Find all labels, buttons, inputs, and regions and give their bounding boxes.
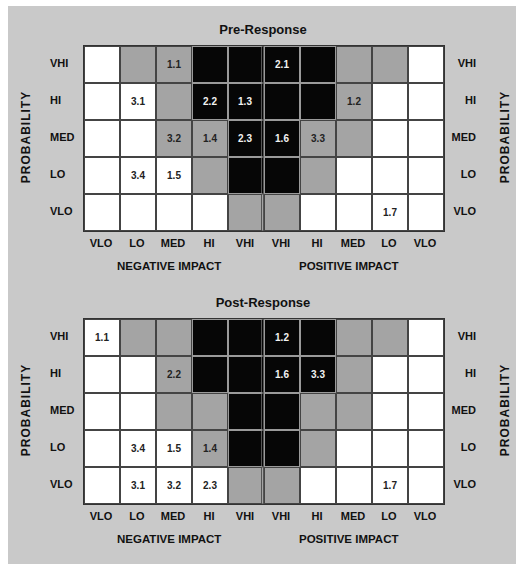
probability-row-label: VLO	[50, 205, 90, 217]
probability-axis-label: PROBABILITY	[19, 77, 33, 197]
probability-row-label: VHI	[436, 330, 476, 342]
risk-cell	[192, 194, 228, 231]
risk-cell	[264, 430, 300, 467]
risk-cell	[228, 467, 264, 504]
impact-column-label: MED	[155, 237, 191, 249]
probability-axis-label: PROBABILITY	[498, 350, 512, 470]
impact-column-label: VHI	[227, 510, 263, 522]
risk-cell: 1.7	[372, 467, 408, 504]
probability-row-label: VHI	[436, 57, 476, 69]
risk-cell: 2.2	[192, 83, 228, 120]
risk-cell	[156, 393, 192, 430]
risk-cell	[336, 467, 372, 504]
impact-column-label: VLO	[83, 510, 119, 522]
probability-axis-label: PROBABILITY	[498, 77, 512, 197]
risk-cell: 2.2	[156, 356, 192, 393]
risk-cell	[192, 393, 228, 430]
impact-column-label: MED	[155, 510, 191, 522]
risk-cell	[372, 319, 408, 356]
risk-cell	[192, 46, 228, 83]
risk-cell: 3.3	[300, 356, 336, 393]
probability-row-label: LO	[50, 168, 90, 180]
probability-row-label: VHI	[50, 57, 90, 69]
risk-cell	[228, 430, 264, 467]
risk-cell	[372, 393, 408, 430]
probability-row-label: MED	[50, 404, 90, 416]
probability-row-label: MED	[50, 131, 90, 143]
risk-cell	[228, 157, 264, 194]
risk-cell	[300, 157, 336, 194]
impact-column-label: HI	[191, 510, 227, 522]
probability-row-label: VHI	[50, 330, 90, 342]
risk-grid: 1.12.13.12.21.31.23.21.42.31.63.33.41.51…	[83, 45, 445, 232]
risk-cell	[300, 46, 336, 83]
risk-cell	[336, 430, 372, 467]
risk-cell	[120, 356, 156, 393]
risk-cell	[120, 319, 156, 356]
probability-axis-label: PROBABILITY	[19, 350, 33, 470]
risk-cell	[120, 120, 156, 157]
probability-row-label: VLO	[436, 478, 476, 490]
risk-cell: 1.4	[192, 120, 228, 157]
probability-row-label: VLO	[50, 478, 90, 490]
risk-cell	[372, 46, 408, 83]
risk-cell: 1.1	[156, 46, 192, 83]
risk-cell	[300, 194, 336, 231]
risk-cell: 2.1	[264, 46, 300, 83]
risk-cell	[336, 319, 372, 356]
probability-row-label: LO	[436, 168, 476, 180]
risk-cell: 3.4	[120, 157, 156, 194]
impact-column-label: HI	[299, 510, 335, 522]
risk-cell	[372, 83, 408, 120]
risk-cell	[300, 319, 336, 356]
risk-cell	[120, 194, 156, 231]
impact-column-label: VLO	[83, 237, 119, 249]
risk-cell	[336, 393, 372, 430]
positive-impact-label: POSITIVE IMPACT	[299, 533, 398, 545]
risk-cell	[192, 157, 228, 194]
risk-cell: 3.3	[300, 120, 336, 157]
probability-row-label: LO	[436, 441, 476, 453]
risk-cell	[156, 319, 192, 356]
risk-cell	[228, 46, 264, 83]
negative-impact-label: NEGATIVE IMPACT	[117, 533, 221, 545]
impact-column-label: VLO	[407, 237, 443, 249]
risk-cell: 3.1	[120, 83, 156, 120]
risk-cell	[336, 120, 372, 157]
positive-impact-label: POSITIVE IMPACT	[299, 260, 398, 272]
impact-column-label: LO	[371, 510, 407, 522]
risk-cell: 1.2	[336, 83, 372, 120]
negative-impact-label: NEGATIVE IMPACT	[117, 260, 221, 272]
risk-cell	[264, 393, 300, 430]
risk-cell	[228, 194, 264, 231]
risk-cell	[372, 120, 408, 157]
risk-cell	[264, 467, 300, 504]
risk-cell: 1.6	[264, 120, 300, 157]
impact-column-label: VHI	[263, 237, 299, 249]
impact-column-label: HI	[191, 237, 227, 249]
risk-cell	[264, 157, 300, 194]
risk-cell	[192, 319, 228, 356]
probability-row-label: HI	[50, 94, 90, 106]
risk-cell: 2.3	[192, 467, 228, 504]
risk-cell	[300, 430, 336, 467]
risk-cell	[300, 393, 336, 430]
probability-row-label: MED	[436, 131, 476, 143]
risk-cell: 3.2	[156, 467, 192, 504]
risk-cell	[264, 83, 300, 120]
risk-cell	[264, 194, 300, 231]
impact-column-label: VHI	[227, 237, 263, 249]
risk-cell: 1.3	[228, 83, 264, 120]
risk-cell	[156, 194, 192, 231]
risk-cell: 3.2	[156, 120, 192, 157]
risk-cell: 1.5	[156, 430, 192, 467]
risk-cell	[336, 46, 372, 83]
impact-column-label: LO	[119, 237, 155, 249]
risk-cell	[300, 467, 336, 504]
impact-column-label: LO	[119, 510, 155, 522]
risk-cell	[336, 356, 372, 393]
probability-row-label: VLO	[436, 205, 476, 217]
risk-cell: 1.6	[264, 356, 300, 393]
risk-cell	[120, 46, 156, 83]
probability-row-label: LO	[50, 441, 90, 453]
